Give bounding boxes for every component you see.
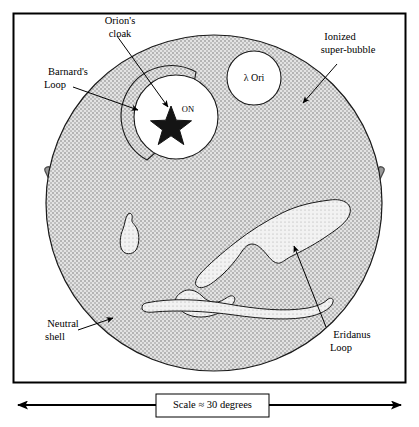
neutral-shell-label-line1: Neutral bbox=[47, 318, 79, 329]
ionized-bubble-label-line2: super-bubble bbox=[321, 44, 376, 55]
ionized-bubble-label-line1: Ionized bbox=[324, 31, 356, 42]
neutral-shell-label-line2: shell bbox=[45, 331, 65, 342]
orions-cloak-label-line1: Orion's bbox=[105, 15, 135, 26]
orions-cloak-label-line2: cloak bbox=[109, 28, 132, 39]
barnards-loop-label-line2: Loop bbox=[44, 79, 66, 90]
figure-root: Orion's cloak Barnard's Loop Ionized sup… bbox=[0, 0, 419, 427]
scale-bar-label: Scale ≈ 30 degrees bbox=[173, 399, 252, 410]
orions-cloak-cavity bbox=[134, 75, 218, 159]
eridanus-loop-label-line1: Eridanus bbox=[333, 329, 370, 340]
lambda-ori-label: λ Ori bbox=[244, 72, 265, 83]
barnards-loop-label-line1: Barnard's bbox=[48, 66, 88, 77]
superbubble-diagram: Orion's cloak Barnard's Loop Ionized sup… bbox=[0, 0, 419, 427]
orion-nebula-label: ON bbox=[182, 104, 194, 114]
eridanus-loop-label-line2: Loop bbox=[330, 342, 352, 353]
scale-bar: Scale ≈ 30 degrees bbox=[18, 394, 401, 417]
